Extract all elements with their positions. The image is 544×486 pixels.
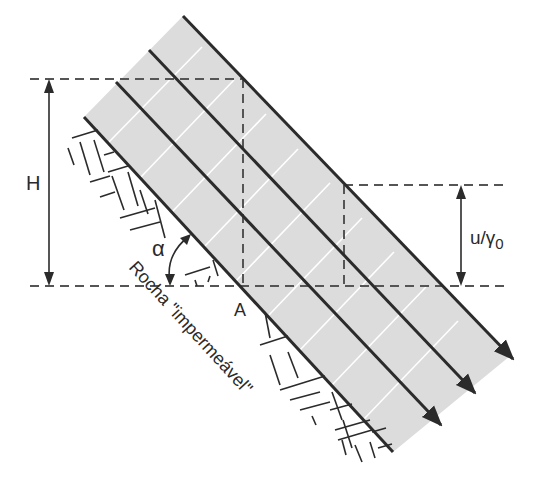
height-label: H <box>26 172 40 194</box>
pressure-head-label: u/γ0 <box>470 227 504 252</box>
slope-diagram: H α A u/γ0 Rocha "impermeável" <box>0 0 544 486</box>
pressure-head-dimension <box>456 185 466 286</box>
point-a-label: A <box>234 300 246 320</box>
saturated-soil-band <box>84 16 510 452</box>
angle-label: α <box>152 236 165 261</box>
height-dimension <box>44 79 54 286</box>
angle-alpha-arc <box>165 234 191 286</box>
